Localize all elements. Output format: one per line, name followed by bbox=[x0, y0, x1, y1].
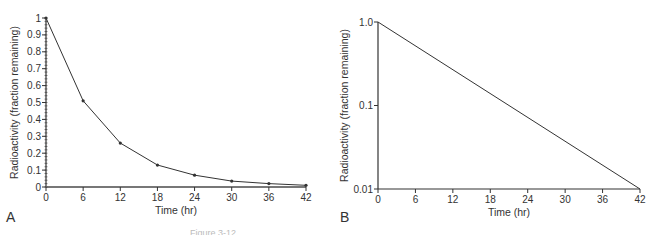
y-tick-label: 0.3 bbox=[27, 131, 41, 142]
y-tick-label: 0.6 bbox=[27, 80, 41, 91]
data-point bbox=[304, 184, 307, 187]
data-point bbox=[82, 99, 85, 102]
x-tick-label: 36 bbox=[263, 192, 275, 203]
series-line bbox=[378, 22, 640, 189]
data-point bbox=[267, 182, 270, 185]
x-tick-label: 30 bbox=[560, 194, 572, 205]
x-tick-label: 18 bbox=[152, 192, 164, 203]
y-axis-title: Radioactivity (fraction remaining) bbox=[8, 26, 20, 179]
y-tick-label: 1.0 bbox=[359, 17, 373, 28]
y-tick-label: 1 bbox=[35, 13, 41, 24]
x-axis-title: Time (hr) bbox=[155, 204, 197, 216]
panel-a-label: A bbox=[6, 209, 16, 225]
figure: 00.10.20.30.40.50.60.70.80.9106121824303… bbox=[0, 0, 655, 235]
y-axis-title: Radioactivity (fraction remaining) bbox=[338, 29, 350, 182]
y-tick-label: 0.01 bbox=[354, 184, 374, 195]
x-tick-label: 42 bbox=[634, 194, 646, 205]
x-tick-label: 6 bbox=[413, 194, 419, 205]
x-tick-label: 0 bbox=[43, 192, 49, 203]
y-tick-label: 0.5 bbox=[27, 97, 41, 108]
y-tick-label: 0.9 bbox=[27, 29, 41, 40]
series-line bbox=[46, 18, 306, 185]
data-point bbox=[44, 16, 47, 19]
y-tick-label: 0.2 bbox=[27, 148, 41, 159]
panel-a: 00.10.20.30.40.50.60.70.80.9106121824303… bbox=[8, 13, 312, 217]
panel-b-label: B bbox=[340, 209, 349, 225]
figure-caption: Figure 3-12 bbox=[190, 228, 236, 235]
x-tick-label: 30 bbox=[226, 192, 238, 203]
data-point bbox=[193, 174, 196, 177]
data-point bbox=[119, 141, 122, 144]
data-point bbox=[230, 179, 233, 182]
data-point bbox=[156, 163, 159, 166]
x-axis-title: Time (hr) bbox=[488, 206, 530, 218]
x-tick-label: 42 bbox=[300, 192, 312, 203]
x-tick-label: 12 bbox=[447, 194, 459, 205]
y-tick-label: 0.4 bbox=[27, 114, 41, 125]
y-tick-label: 0 bbox=[35, 182, 41, 193]
y-tick-label: 0.7 bbox=[27, 63, 41, 74]
x-tick-label: 18 bbox=[485, 194, 497, 205]
x-tick-label: 24 bbox=[522, 194, 534, 205]
x-tick-label: 36 bbox=[597, 194, 609, 205]
x-tick-label: 0 bbox=[375, 194, 381, 205]
x-tick-label: 12 bbox=[115, 192, 127, 203]
y-tick-label: 0.1 bbox=[27, 165, 41, 176]
y-tick-label: 0.1 bbox=[359, 100, 373, 111]
x-tick-label: 6 bbox=[80, 192, 86, 203]
y-tick-label: 0.8 bbox=[27, 46, 41, 57]
panel-b: 0.010.11.006121824303642Time (hr)Radioac… bbox=[338, 17, 646, 219]
x-tick-label: 24 bbox=[189, 192, 201, 203]
